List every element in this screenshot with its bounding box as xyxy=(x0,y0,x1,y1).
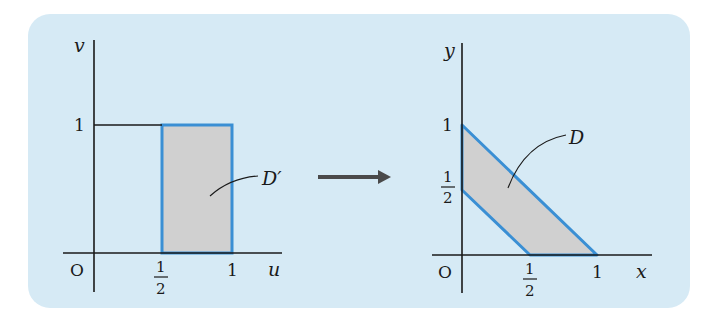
right-plot: y 1 1 2 O 1 2 1 x D xyxy=(432,39,652,300)
left-plot: v 1 O 1 2 1 u D′ xyxy=(63,34,282,298)
u-axis-label: u xyxy=(268,258,280,280)
mapping-arrow-icon xyxy=(318,170,391,184)
transformation-diagram: v 1 O 1 2 1 u D′ y 1 1 2 O 1 2 1 x D xyxy=(0,0,716,312)
d-prime-label: D′ xyxy=(261,167,282,189)
y-tick-half-num: 1 xyxy=(443,168,453,186)
y-tick-1: 1 xyxy=(442,115,453,135)
d-label: D xyxy=(568,126,584,148)
u-tick-half-num: 1 xyxy=(156,258,166,276)
u-tick-half-den: 2 xyxy=(156,280,166,298)
x-tick-half-num: 1 xyxy=(525,260,535,278)
y-axis-label: y xyxy=(443,39,455,61)
region-d-prime xyxy=(162,125,232,253)
u-tick-1: 1 xyxy=(227,260,238,280)
v-axis-label: v xyxy=(74,34,85,56)
x-tick-half-den: 2 xyxy=(525,282,535,300)
v-tick-1: 1 xyxy=(74,115,85,135)
origin-label-right: O xyxy=(438,262,452,282)
origin-label: O xyxy=(70,260,84,280)
x-axis-label: x xyxy=(636,260,647,282)
x-tick-1: 1 xyxy=(592,262,603,282)
y-tick-half-den: 2 xyxy=(443,189,453,207)
